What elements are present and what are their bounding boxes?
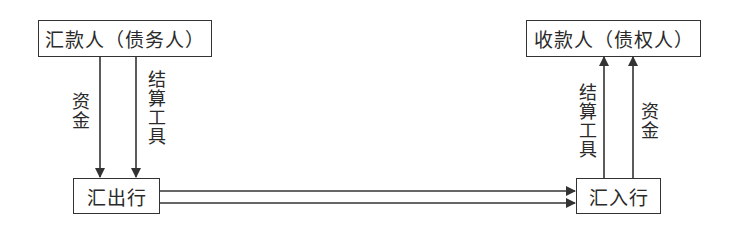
remitting-bank-label: 汇出行 [87,183,147,210]
payee-label: 收款人（债权人） [534,25,694,52]
left-instrument-label: 结算工具 [147,70,167,146]
receiving-bank-box: 汇入行 [576,178,661,214]
remitting-bank-box: 汇出行 [73,178,160,214]
right-funds-label: 资金 [640,102,660,140]
remitter-label: 汇款人（债务人） [45,25,205,52]
receiving-bank-label: 汇入行 [589,183,649,210]
left-funds-label: 资金 [71,92,91,130]
remitter-box: 汇款人（债务人） [38,20,212,57]
payee-box: 收款人（债权人） [526,20,701,57]
right-instrument-label: 结算工具 [578,83,598,159]
